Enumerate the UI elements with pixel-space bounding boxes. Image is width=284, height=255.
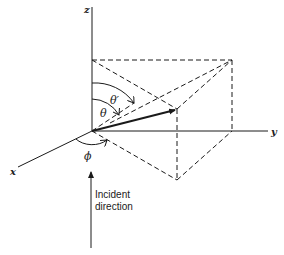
- y-axis-label: y: [270, 126, 278, 137]
- phi-arc: [76, 139, 107, 145]
- incident-label-line1: Incident: [95, 189, 133, 201]
- incident-label-line2: direction: [95, 201, 133, 213]
- z-axis-label: z: [83, 4, 90, 15]
- x-axis-label: x: [9, 166, 17, 177]
- phi-label: ϕ: [84, 150, 92, 163]
- construction-lines: [92, 60, 232, 180]
- theta-label: θ: [100, 107, 107, 120]
- x-axis: [18, 131, 92, 167]
- theta-prime-label: θ′: [110, 94, 120, 107]
- incident-direction-label: Incident direction: [95, 189, 133, 213]
- scattering-geometry-diagram: z y x θ θ′ ϕ: [0, 0, 284, 255]
